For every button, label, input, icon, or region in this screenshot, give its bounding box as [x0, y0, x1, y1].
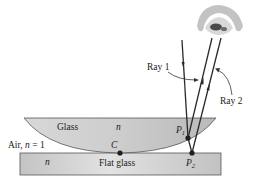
newtons-rings-diagram: Ray 1 Ray 2 Glass n Air, n = 1 n Flat gl…: [0, 0, 259, 182]
point-c-label: C: [111, 141, 117, 151]
point-c-dot: [117, 150, 122, 155]
ray-2-leader: [218, 70, 232, 95]
ray-1-leader: [168, 72, 196, 80]
p2-subscript: 2: [192, 162, 195, 169]
flat-glass-label: Flat glass: [99, 159, 135, 169]
eye-icon: [197, 5, 243, 35]
lens-index-label: n: [116, 123, 121, 133]
p1-subscript: 1: [182, 129, 185, 136]
glass-label: Glass: [57, 123, 78, 133]
point-p2-dot: [189, 150, 194, 155]
point-p1-label: P1: [176, 126, 185, 137]
air-suffix: = 1: [30, 140, 45, 150]
ray-2-line: [192, 38, 221, 153]
diagram-canvas: [0, 0, 259, 182]
point-p1-dot: [185, 135, 190, 140]
air-label: Air, n = 1: [8, 141, 45, 151]
air-prefix: Air,: [8, 140, 25, 150]
ray-1-leader-arrow-icon: [194, 78, 199, 82]
point-p2-label: P2: [186, 159, 195, 170]
ray-2-label: Ray 2: [220, 97, 242, 107]
ray-2-arrow-icon: [207, 84, 210, 91]
flat-index-label: n: [45, 158, 50, 168]
ray-1-label: Ray 1: [147, 63, 169, 73]
ray-2-leader-arrow-icon: [215, 68, 220, 73]
